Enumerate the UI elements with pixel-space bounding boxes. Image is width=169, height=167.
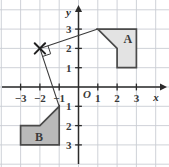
y-tick-label: 3 xyxy=(66,23,72,35)
y-tick-label: 2 xyxy=(66,120,72,132)
x-tick-label: 1 xyxy=(95,92,101,104)
x-axis-label: x xyxy=(152,91,159,103)
y-tick-label: 1 xyxy=(66,62,72,74)
x-tick-label: −3 xyxy=(15,92,27,104)
coordinate-plane-svg: −3−2−1123321123OxyAB xyxy=(0,0,169,167)
y-axis-label: y xyxy=(64,6,71,18)
y-tick-label: 1 xyxy=(66,100,72,112)
coordinate-plane-figure: −3−2−1123321123OxyAB xyxy=(0,0,169,167)
x-tick-label: −2 xyxy=(34,92,46,104)
shape-label-b: B xyxy=(35,130,43,144)
y-tick-label: 3 xyxy=(66,139,72,151)
y-tick-label: 2 xyxy=(66,42,72,54)
x-tick-label: −1 xyxy=(53,92,65,104)
x-tick-label: 3 xyxy=(134,92,140,104)
x-tick-label: 2 xyxy=(114,92,120,104)
origin-label: O xyxy=(83,88,91,100)
shape-label-a: A xyxy=(123,32,132,46)
